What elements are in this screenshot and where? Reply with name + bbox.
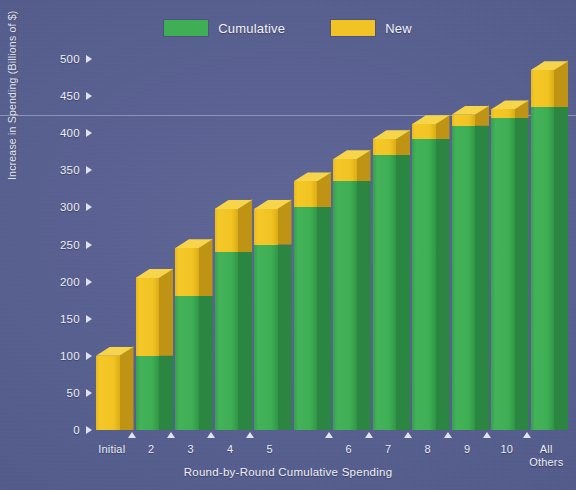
y-tick-label: 300 — [60, 201, 80, 213]
x-tick-arrow-icon — [207, 432, 215, 438]
y-tick-200: 200 — [30, 276, 92, 288]
y-tick-label: 200 — [60, 276, 80, 288]
y-tick-350: 350 — [30, 164, 92, 176]
y-tick-150: 150 — [30, 313, 92, 325]
x-label-6: 6 — [346, 443, 352, 456]
y-tick-label: 100 — [60, 350, 80, 362]
x-axis-title: Round-by-Round Cumulative Spending — [0, 466, 576, 478]
y-axis-ticks: 500450400350300250200150100500 — [0, 0, 576, 490]
legend-item-cumulative: Cumulative — [164, 20, 285, 36]
y-tick-label: 400 — [60, 127, 80, 139]
x-tick-arrow-icon — [365, 432, 373, 438]
legend-swatch-cumulative — [164, 20, 208, 36]
y-tick-arrow-icon — [86, 55, 92, 63]
y-tick-50: 50 — [30, 387, 92, 399]
y-tick-label: 350 — [60, 164, 80, 176]
y-tick-arrow-icon — [86, 203, 92, 211]
legend-label-new: New — [385, 21, 412, 36]
y-tick-arrow-icon — [86, 315, 92, 323]
y-tick-250: 250 — [30, 239, 92, 251]
y-tick-label: 150 — [60, 313, 80, 325]
x-label-7: 7 — [385, 443, 391, 456]
x-label-5: 5 — [267, 443, 273, 456]
x-label-4: 4 — [227, 443, 233, 456]
y-tick-arrow-icon — [86, 92, 92, 100]
legend-label-cumulative: Cumulative — [218, 21, 285, 36]
x-tick-arrow-icon — [167, 432, 175, 438]
y-tick-label: 250 — [60, 239, 80, 251]
x-tick-arrow-icon — [483, 432, 491, 438]
x-tick-arrow-icon — [325, 432, 333, 438]
y-tick-arrow-icon — [86, 129, 92, 137]
y-tick-arrow-icon — [86, 426, 92, 434]
x-tick-arrow-icon — [404, 432, 412, 438]
x-tick-arrow-icon — [444, 432, 452, 438]
x-tick-arrow-icon — [128, 432, 136, 438]
x-label-8: 8 — [425, 443, 431, 456]
y-tick-label: 450 — [60, 90, 80, 102]
x-tick-arrow-icon — [523, 432, 531, 438]
x-label-2: 2 — [148, 443, 154, 456]
x-label-9: 9 — [464, 443, 470, 456]
y-tick-label: 500 — [60, 53, 80, 65]
x-label-3: 3 — [188, 443, 194, 456]
x-label-10: 10 — [500, 443, 513, 456]
y-tick-arrow-icon — [86, 166, 92, 174]
y-tick-400: 400 — [30, 127, 92, 139]
y-tick-label: 0 — [73, 424, 80, 436]
y-tick-arrow-icon — [86, 352, 92, 360]
y-tick-100: 100 — [30, 350, 92, 362]
y-tick-arrow-icon — [86, 241, 92, 249]
y-tick-500: 500 — [30, 53, 92, 65]
y-tick-300: 300 — [30, 201, 92, 213]
y-tick-0: 0 — [30, 424, 92, 436]
legend-swatch-new — [331, 20, 375, 36]
y-tick-label: 50 — [67, 387, 80, 399]
y-tick-450: 450 — [30, 90, 92, 102]
chart-legend: Cumulative New — [0, 20, 576, 36]
legend-item-new: New — [331, 20, 412, 36]
chart-container: Cumulative New Increase in Spending (Bil… — [0, 0, 576, 490]
y-tick-arrow-icon — [86, 389, 92, 397]
x-tick-arrow-icon — [246, 432, 254, 438]
y-tick-arrow-icon — [86, 278, 92, 286]
x-label-initial: Initial — [98, 443, 125, 456]
